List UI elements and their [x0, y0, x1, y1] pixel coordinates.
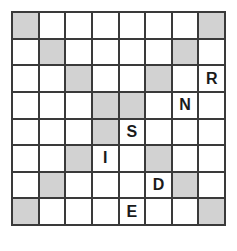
cell-letter-e: E: [126, 204, 137, 220]
grid-cell-r7-c7[interactable]: [199, 199, 224, 224]
grid-cell-r5-c6[interactable]: [173, 146, 198, 171]
grid-cell-r7-c2[interactable]: [66, 199, 91, 224]
grid-cell-r5-c0[interactable]: [13, 146, 38, 171]
grid-cell-r5-c5[interactable]: [146, 146, 171, 171]
grid-cell-r6-c2[interactable]: [66, 173, 91, 198]
grid-cell-r0-c6[interactable]: [173, 13, 198, 38]
grid-cell-r2-c3[interactable]: [93, 66, 118, 91]
grid-cell-r1-c3[interactable]: [93, 40, 118, 65]
cell-letter-i: I: [103, 150, 107, 166]
cell-letter-s: S: [126, 124, 137, 140]
grid-cell-r5-c3[interactable]: I: [93, 146, 118, 171]
grid-cell-r1-c2[interactable]: [66, 40, 91, 65]
grid-cell-r6-c1[interactable]: [40, 173, 65, 198]
grid-cell-r2-c1[interactable]: [40, 66, 65, 91]
puzzle-canvas: RNSIDE: [0, 0, 237, 251]
grid-cell-r6-c4[interactable]: [120, 173, 145, 198]
grid-cell-r5-c4[interactable]: [120, 146, 145, 171]
grid-cell-r7-c1[interactable]: [40, 199, 65, 224]
cell-letter-d: D: [153, 177, 165, 193]
grid-cell-r2-c7[interactable]: R: [199, 66, 224, 91]
grid-cell-r4-c3[interactable]: [93, 120, 118, 145]
grid-cell-r5-c1[interactable]: [40, 146, 65, 171]
grid-cell-r0-c5[interactable]: [146, 13, 171, 38]
grid-cell-r5-c2[interactable]: [66, 146, 91, 171]
grid-cell-r4-c5[interactable]: [146, 120, 171, 145]
grid-cell-r3-c2[interactable]: [66, 93, 91, 118]
grid-cell-r3-c3[interactable]: [93, 93, 118, 118]
grid-cell-r6-c6[interactable]: [173, 173, 198, 198]
grid-cell-r4-c2[interactable]: [66, 120, 91, 145]
grid-cell-r2-c2[interactable]: [66, 66, 91, 91]
grid-cell-r0-c1[interactable]: [40, 13, 65, 38]
grid-cell-r0-c7[interactable]: [199, 13, 224, 38]
grid-cell-r5-c7[interactable]: [199, 146, 224, 171]
grid-cell-r7-c4[interactable]: E: [120, 199, 145, 224]
grid-cell-r4-c0[interactable]: [13, 120, 38, 145]
grid-cell-r6-c5[interactable]: D: [146, 173, 171, 198]
grid-cell-r2-c0[interactable]: [13, 66, 38, 91]
grid-cell-r3-c6[interactable]: N: [173, 93, 198, 118]
grid-cell-r1-c4[interactable]: [120, 40, 145, 65]
grid-cell-r1-c1[interactable]: [40, 40, 65, 65]
grid-cell-r1-c7[interactable]: [199, 40, 224, 65]
grid-cell-r2-c6[interactable]: [173, 66, 198, 91]
grid-cell-r1-c0[interactable]: [13, 40, 38, 65]
grid-cell-r1-c5[interactable]: [146, 40, 171, 65]
grid-cell-r4-c4[interactable]: S: [120, 120, 145, 145]
grid-cell-r7-c6[interactable]: [173, 199, 198, 224]
grid-cell-r1-c6[interactable]: [173, 40, 198, 65]
grid-cell-r0-c0[interactable]: [13, 13, 38, 38]
grid-cell-r4-c1[interactable]: [40, 120, 65, 145]
grid-cell-r3-c7[interactable]: [199, 93, 224, 118]
grid-cell-r0-c4[interactable]: [120, 13, 145, 38]
grid-cell-r4-c6[interactable]: [173, 120, 198, 145]
cell-letter-r: R: [206, 71, 218, 87]
grid-cell-r4-c7[interactable]: [199, 120, 224, 145]
grid-cell-r0-c3[interactable]: [93, 13, 118, 38]
grid-cell-r6-c3[interactable]: [93, 173, 118, 198]
grid-cell-r3-c1[interactable]: [40, 93, 65, 118]
puzzle-grid: RNSIDE: [11, 11, 226, 226]
grid-cell-r3-c4[interactable]: [120, 93, 145, 118]
grid-cell-r6-c0[interactable]: [13, 173, 38, 198]
grid-cell-r0-c2[interactable]: [66, 13, 91, 38]
grid-cell-r3-c5[interactable]: [146, 93, 171, 118]
grid-cell-r7-c0[interactable]: [13, 199, 38, 224]
grid-cell-r2-c5[interactable]: [146, 66, 171, 91]
grid-cell-r7-c5[interactable]: [146, 199, 171, 224]
grid-cell-r6-c7[interactable]: [199, 173, 224, 198]
cell-letter-n: N: [179, 97, 191, 113]
grid-cell-r7-c3[interactable]: [93, 199, 118, 224]
grid-cell-r3-c0[interactable]: [13, 93, 38, 118]
grid-cell-r2-c4[interactable]: [120, 66, 145, 91]
